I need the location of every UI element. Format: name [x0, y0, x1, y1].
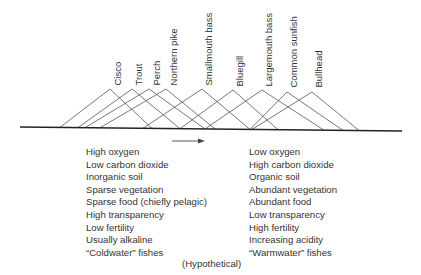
- condition-item: High carbon dioxide: [249, 159, 337, 172]
- species-label-largemouth-bass: Largemouth bass: [264, 13, 274, 86]
- gradient-arrow-icon: [171, 137, 207, 145]
- warmwater-conditions-list: Low oxygenHigh carbon dioxideOrganic soi…: [249, 146, 337, 259]
- condition-item: Increasing acidity: [249, 234, 337, 247]
- triangle-perch: [85, 89, 205, 129]
- species-label-cisco: Cisco: [113, 62, 123, 86]
- condition-item: Sparse vegetation: [86, 184, 207, 197]
- species-label-bullhead: Bullhead: [314, 51, 324, 88]
- condition-item: Low carbon dioxide: [86, 159, 207, 172]
- condition-item: Low oxygen: [249, 146, 337, 159]
- condition-item: Abundant vegetation: [249, 184, 337, 197]
- triangle-bluegill: [180, 90, 278, 130]
- condition-item: “Warmwater” fishes: [249, 247, 337, 260]
- footnote-hypothetical: (Hypothetical): [182, 258, 241, 269]
- species-label-bluegill: Bluegill: [235, 56, 245, 87]
- condition-item: High fertility: [249, 222, 337, 235]
- condition-item: Usually alkaline: [86, 234, 207, 247]
- condition-item: Sparse food (chiefly pelagic): [86, 196, 207, 209]
- species-tolerance-triangles: [60, 89, 359, 131]
- species-label-smallmouth-bass: Smallmouth bass: [204, 13, 214, 86]
- condition-item: High oxygen: [86, 146, 207, 159]
- condition-item: Low fertility: [86, 222, 207, 235]
- environment-gradient-baseline: [20, 127, 402, 131]
- triangle-common-sunfish: [250, 92, 343, 130]
- triangle-cisco: [60, 89, 152, 128]
- condition-item: Organic soil: [249, 171, 337, 184]
- species-label-northern-pike: Northern pike: [169, 28, 179, 85]
- condition-item: High transparency: [86, 209, 207, 222]
- species-label-common-sunfish: Common sunfish: [289, 16, 299, 87]
- species-label-trout: Trout: [134, 64, 144, 86]
- condition-item: Abundant food: [249, 196, 337, 209]
- coldwater-conditions-list: High oxygenLow carbon dioxideInorganic s…: [86, 146, 207, 259]
- condition-item: Inorganic soil: [86, 171, 207, 184]
- condition-item: Low transparency: [249, 209, 337, 222]
- species-label-perch: Perch: [152, 61, 162, 86]
